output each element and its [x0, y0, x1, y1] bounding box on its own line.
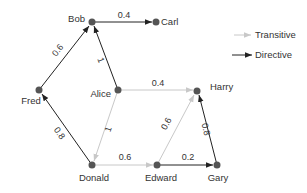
- edge-fred-bob[interactable]: 0.6: [39, 26, 89, 90]
- network-graph: 0.4 0.6 1 0.4 1 0.8 0.6: [0, 0, 307, 193]
- legend-item-transitive: Transitive: [234, 29, 296, 40]
- node-harry[interactable]: Harry: [194, 81, 234, 95]
- node-label: Fred: [21, 95, 41, 106]
- node-carl[interactable]: Carl: [153, 16, 179, 27]
- node-label: Harry: [210, 81, 233, 92]
- node-bob[interactable]: Bob: [68, 13, 95, 26]
- legend: Transitive Directive: [232, 29, 296, 60]
- node-label: Alice: [90, 88, 111, 99]
- edge-weight-label: 0.6: [50, 42, 66, 58]
- edge-alice-donald[interactable]: 1: [94, 90, 118, 161]
- edge-weight-label: 0.8: [200, 122, 213, 137]
- node-label: Edward: [145, 172, 177, 183]
- edge-edward-gary[interactable]: 0.2: [157, 152, 213, 165]
- edge-weight-label: 1: [95, 56, 106, 64]
- edge-alice-harry[interactable]: 0.4: [118, 78, 193, 90]
- node-fred[interactable]: Fred: [21, 87, 42, 107]
- edge-weight-label: 0.2: [182, 152, 195, 162]
- edge-weight-label: 0.4: [118, 10, 131, 20]
- edge-donald-fred[interactable]: 0.8: [42, 94, 92, 165]
- legend-label: Transitive: [255, 29, 296, 40]
- edge-weight-label: 0.8: [52, 125, 67, 141]
- node-label: Gary: [208, 172, 229, 183]
- legend-label: Directive: [255, 49, 292, 60]
- edge-weight-label: 0.4: [152, 78, 165, 88]
- edge-weight-label: 0.6: [119, 152, 132, 162]
- edges: 0.4 0.6 1 0.4 1 0.8 0.6: [39, 10, 217, 165]
- node-alice[interactable]: Alice: [90, 87, 121, 100]
- node-label: Donald: [79, 172, 109, 183]
- edge-donald-edward[interactable]: 0.6: [92, 152, 153, 165]
- node-label: Bob: [68, 13, 85, 24]
- edge-bob-carl[interactable]: 0.4: [92, 10, 152, 22]
- edge-alice-bob[interactable]: 1: [94, 26, 118, 90]
- edge-weight-label: 0.6: [159, 116, 174, 132]
- edge-gary-harry[interactable]: 0.8: [199, 95, 217, 165]
- node-label: Carl: [161, 16, 178, 27]
- legend-item-directive: Directive: [232, 49, 292, 60]
